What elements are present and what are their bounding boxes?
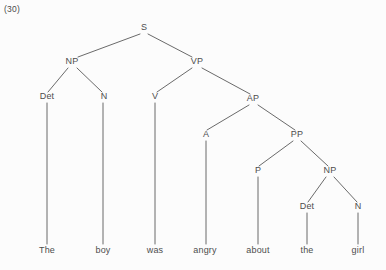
tree-node-n1: N [101,91,108,101]
tree-edge-s-vp [148,34,192,57]
tree-edge-np1-det1 [48,68,68,92]
tree-edge-np2-det2 [308,177,326,202]
tree-leaf-w7: girl [352,245,365,255]
tree-edge-np1-n1 [77,68,102,92]
tree-node-p: P [255,165,261,175]
tree-node-group: SNPVPDetNVAPAPPPNPDetN [40,22,362,211]
tree-node-ap: AP [247,93,259,103]
tree-leaf-w4: angry [193,245,217,255]
tree-node-s: S [141,22,147,32]
tree-leaf-w1: The [39,245,55,255]
syntax-tree-diagram: SNPVPDetNVAPAPPPNPDetN Theboywasangryabo… [0,0,386,270]
tree-node-pp: PP [291,129,303,139]
tree-leaf-w6: the [300,245,313,255]
tree-edge-ap-pp [258,105,295,130]
tree-leaf-w3: was [146,245,164,255]
tree-node-det1: Det [40,91,55,101]
tree-edge-vp-ap [202,68,250,94]
tree-edge-pp-p [259,141,293,166]
tree-node-det2: Det [300,201,315,211]
syntax-tree-figure: (30) SNPVPDetNVAPAPPPNPDetN Theboywasang… [0,0,386,270]
tree-node-np2: NP [324,165,337,175]
tree-edge-ap-a [207,105,249,130]
tree-leaf-group: Theboywasangryaboutthegirl [39,245,364,255]
tree-node-n2: N [355,201,362,211]
tree-node-v: V [152,91,158,101]
tree-edge-np2-n2 [334,177,357,202]
tree-node-vp: VP [191,56,203,66]
tree-leaf-w2: boy [95,245,110,255]
tree-edge-pp-np2 [301,141,328,166]
tree-edge-vp-v [157,68,192,92]
tree-edge-s-np1 [78,34,140,57]
tree-node-a: A [203,129,209,139]
tree-leaf-w5: about [246,245,270,255]
tree-node-np1: NP [66,56,79,66]
